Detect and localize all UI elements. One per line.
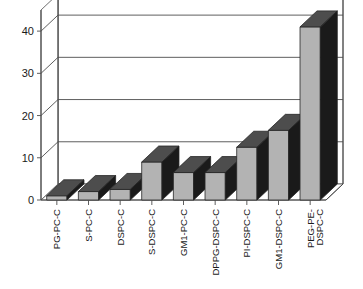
- bar-front-face: [142, 162, 162, 200]
- x-axis-label: PEG-PE-DSPC-C: [305, 209, 326, 248]
- bar-front-face: [78, 192, 98, 200]
- x-axis-label-line: PG-PC-C: [51, 209, 62, 249]
- chart-left-wall: [41, 0, 58, 200]
- x-axis-label-line: PI-DSPC-C: [241, 209, 252, 258]
- x-axis-label: DPPG-DSPC-C: [210, 209, 221, 276]
- x-axis-label-line: S-DSPC-C: [146, 209, 157, 255]
- bar-front-face: [268, 130, 288, 200]
- chart-canvas: 010203040PG-PC-CS-PC-CDSPC-CS-DSPC-CGM1-…: [0, 0, 363, 289]
- y-tick-label: 30: [22, 67, 34, 79]
- x-axis-label-line: DSPC-C: [115, 209, 126, 246]
- x-axis-label: PI-DSPC-C: [241, 209, 252, 258]
- y-axis-ticks: 010203040: [22, 25, 41, 206]
- bar-chart: 010203040PG-PC-CS-PC-CDSPC-CS-DSPC-CGM1-…: [0, 0, 363, 289]
- bar-front-face: [173, 173, 193, 200]
- bar-front-face: [300, 27, 320, 200]
- x-axis-label: GM1-PC-C: [178, 209, 189, 256]
- x-axis-label-line: GM1-PC-C: [178, 209, 189, 256]
- x-axis-label-line: S-PC-C: [83, 209, 94, 242]
- x-axis-labels: PG-PC-CS-PC-CDSPC-CS-DSPC-CGM1-PC-CDPPG-…: [51, 200, 325, 276]
- bar-front-face: [205, 173, 225, 200]
- y-tick-label: 20: [22, 110, 34, 122]
- bar-front-face: [47, 196, 67, 200]
- x-axis-label: S-DSPC-C: [146, 209, 157, 255]
- bar[interactable]: [300, 11, 337, 200]
- x-axis-label-line: GM1-DSPC-C: [273, 209, 284, 269]
- y-tick-label: 10: [22, 152, 34, 164]
- x-axis-label: GM1-DSPC-C: [273, 209, 284, 269]
- x-axis-label-line: DPPG-DSPC-C: [210, 209, 221, 276]
- y-tick-label: 0: [28, 194, 34, 206]
- bar-side-face: [320, 11, 337, 200]
- x-axis-label: S-PC-C: [83, 209, 94, 242]
- x-axis-label: PG-PC-C: [51, 209, 62, 249]
- x-axis-label: DSPC-C: [115, 209, 126, 246]
- bar-front-face: [110, 189, 130, 200]
- x-axis-label-line: DSPC-C: [314, 209, 325, 246]
- y-tick-label: 40: [22, 25, 34, 37]
- bar-front-face: [237, 147, 257, 200]
